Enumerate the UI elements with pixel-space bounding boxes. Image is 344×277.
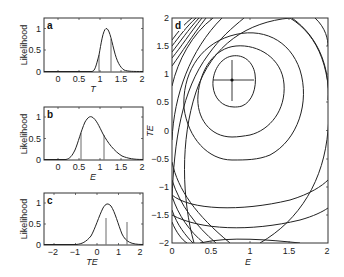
y-tick: 0.5 <box>28 134 41 144</box>
x-tick: 0 <box>94 247 99 257</box>
x-axis-label: T <box>90 84 97 94</box>
x-axis-label: E <box>245 257 252 267</box>
y-tick: −1.5 <box>151 210 169 220</box>
maximum-point <box>230 78 233 81</box>
y-tick: 0.5 <box>28 45 41 55</box>
x-tick: 1.5 <box>115 162 128 172</box>
panel-d: d −2 −1.5 −1 −0.5 0 0.5 1 1.5 2 0 0.5 1 … <box>145 13 330 267</box>
x-tick: 2 <box>324 246 329 256</box>
inner-contour <box>213 56 256 107</box>
y-axis-label: Likelihood <box>19 114 29 155</box>
y-tick: −1 <box>159 182 169 192</box>
panel-b: b 0 0.5 1 0 0.5 1 1.5 2 E Likelihood <box>19 107 145 182</box>
panel-a-frame <box>44 18 143 72</box>
y-tick: 0.5 <box>156 97 169 107</box>
x-axis-label: E <box>90 172 97 182</box>
y-tick: 1 <box>36 112 41 122</box>
panel-c-likelihood-curve <box>44 204 143 245</box>
x-tick: 1 <box>97 74 102 84</box>
y-tick: −0.5 <box>151 154 169 164</box>
x-tick: 1 <box>247 246 252 256</box>
x-tick: 1 <box>97 162 102 172</box>
y-tick: 0 <box>36 240 41 250</box>
y-tick: 2 <box>164 13 169 23</box>
y-axis-label: TE <box>145 124 155 136</box>
y-tick: −2 <box>159 238 169 248</box>
x-tick: 0 <box>55 74 60 84</box>
x-tick: 1.5 <box>283 246 296 256</box>
x-axis-label: TE <box>86 257 98 267</box>
figure: a 0 0.5 1 0 0.5 1 1.5 2 T Likelihood b 0 <box>0 0 344 277</box>
y-tick: 1 <box>164 69 169 79</box>
panel-b-letter: b <box>47 109 53 120</box>
y-tick: 1 <box>36 24 41 34</box>
x-tick: 2 <box>139 74 144 84</box>
panel-a-letter: a <box>47 20 53 31</box>
y-tick: 1.5 <box>156 41 169 51</box>
panel-c-frame <box>44 193 143 245</box>
panel-d-letter: d <box>175 20 181 31</box>
x-tick: 1.5 <box>115 74 128 84</box>
panel-c: c 0 0.5 1 −2 −1 0 1 2 TE Likelihood <box>19 193 143 267</box>
x-tick: 0.5 <box>73 74 86 84</box>
panel-a-likelihood-curve <box>44 28 143 71</box>
x-tick: 0.5 <box>205 246 218 256</box>
panel-b-likelihood-curve <box>44 117 143 160</box>
panel-b-frame <box>44 107 143 160</box>
y-tick: 1 <box>36 198 41 208</box>
y-tick: 0 <box>36 155 41 165</box>
x-tick: 2 <box>139 162 144 172</box>
contour-lines <box>172 18 329 243</box>
x-tick: 0 <box>55 162 60 172</box>
x-tick: 0 <box>169 246 174 256</box>
y-axis-label: Likelihood <box>19 199 29 240</box>
x-tick: 1 <box>116 247 121 257</box>
x-tick: 2 <box>137 247 142 257</box>
y-axis-label: Likelihood <box>19 25 29 66</box>
y-tick: 0 <box>36 67 41 77</box>
y-tick: 0.5 <box>28 219 41 229</box>
x-tick: −1 <box>70 247 80 257</box>
panel-c-letter: c <box>47 195 53 206</box>
y-tick: 0 <box>164 126 169 136</box>
x-tick: −2 <box>48 247 58 257</box>
panel-a: a 0 0.5 1 0 0.5 1 1.5 2 T Likelihood <box>19 18 145 94</box>
x-tick: 0.5 <box>73 162 86 172</box>
